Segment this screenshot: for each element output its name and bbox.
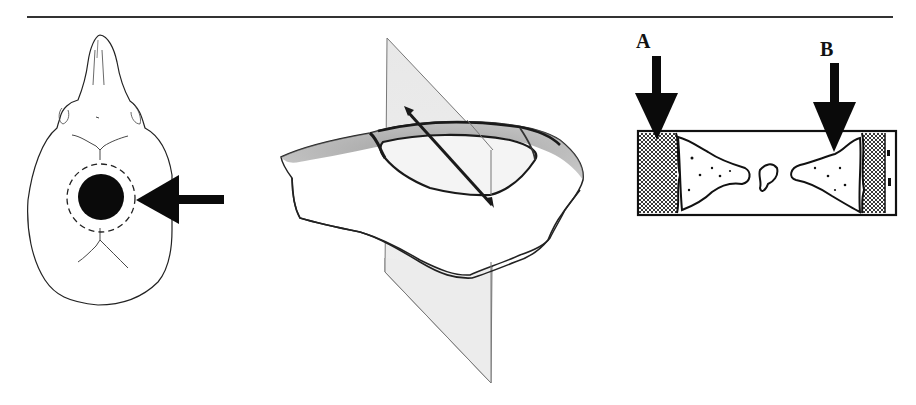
craniotomy-circle [78,174,124,220]
label-a: A [636,31,650,51]
skull-illustration [0,0,260,405]
panel-skull [0,0,260,405]
panel-cross-section: A B [620,20,916,240]
arrow-left-icon [136,175,224,224]
panel-bone-section [270,30,600,390]
bone-section-illustration [270,30,600,390]
cross-section-illustration [620,20,916,240]
arrow-down-icon [635,56,678,140]
skull-outline [28,35,172,305]
figure: A B [0,0,916,405]
label-b: B [820,39,833,59]
